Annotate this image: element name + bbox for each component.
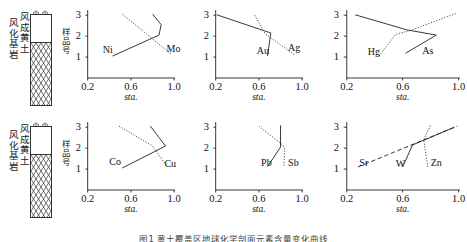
plot-svg-co-cu [84, 120, 176, 198]
series-label-hg: Hg [368, 47, 380, 57]
core-loess-unit-top [31, 15, 51, 43]
y-axis-tick-label: 2 [197, 143, 209, 154]
y-axis-tick-label: 3 [327, 10, 339, 21]
figure-caption: 图1 黄土覆盖区地球化学剖面元素含量变化曲线 [0, 232, 467, 242]
core-bedrock-unit-bottom [31, 155, 51, 217]
series-label-sr: Sr [359, 158, 368, 168]
x-axis-label: sta. [244, 93, 274, 103]
plot-area-sr-w-zn: 1230.20.61.0sta.SrWZn [342, 120, 461, 198]
plot-area-pb-sb: 1230.20.61.0sta.PbSb [212, 120, 304, 198]
series-line-hg [355, 15, 436, 35]
series-line-cu [119, 126, 167, 166]
y-axis-tick-label: 2 [327, 143, 339, 154]
y-axis-tick-label: 2 [197, 31, 209, 42]
series-label-cu: Cu [164, 159, 176, 169]
series-line-co [122, 126, 165, 168]
x-axis-tick-label: 0.2 [75, 194, 101, 205]
lithology-labels-top: 风成黄土 风化基岩 [2, 12, 30, 108]
x-axis-tick-label: 0.2 [203, 194, 229, 205]
x-axis-label: sta. [388, 205, 418, 215]
plot-area-hg-as: 1230.20.61.0sta.HgAs [342, 8, 461, 86]
chart-panel-hg-as: 1230.20.61.0sta.HgAs [316, 2, 467, 114]
y-axis-tick-label: 1 [69, 164, 81, 175]
x-axis-tick-label: 0.2 [334, 194, 360, 205]
y-axis-tick-label: 1 [197, 52, 209, 63]
y-axis-tick-label: 1 [327, 164, 339, 175]
series-label-co: Co [109, 157, 121, 167]
x-axis-label: sta. [116, 93, 146, 103]
series-label-as: As [422, 46, 433, 56]
x-axis-tick-label: 0.6 [118, 82, 144, 93]
series-line-ni [113, 14, 162, 56]
y-axis-tick-label: 2 [69, 31, 81, 42]
x-axis-tick-label: 0.2 [334, 82, 360, 93]
lithology-label-aeolian-loess-bottom: 风成黄土 [19, 124, 30, 220]
x-axis-tick-label: 0.6 [246, 194, 272, 205]
chart-panel-co-cu: 样品号 1230.20.61.0sta.CoCu [58, 114, 182, 226]
core-loess-unit-bottom [31, 127, 51, 155]
series-line-w [403, 127, 455, 167]
y-axis-tick-label: 1 [69, 52, 81, 63]
chart-panel-au-ag: 1230.20.61.0sta.AuAg [186, 2, 310, 114]
plot-area-ni-mo: 1230.20.61.0sta.NiMo [84, 8, 176, 86]
series-label-pb: Pb [261, 158, 272, 168]
y-axis-tick-label: 1 [197, 164, 209, 175]
y-axis-tick-label: 3 [197, 10, 209, 21]
plot-svg-hg-as [342, 8, 461, 86]
plot-area-au-ag: 1230.20.61.0sta.AuAg [212, 8, 304, 86]
x-axis-tick-label: 1.0 [446, 82, 467, 93]
lithology-label-aeolian-loess-top: 风成黄土 [19, 12, 30, 108]
x-axis-label: sta. [388, 93, 418, 103]
series-label-w: W [396, 159, 405, 169]
y-axis-tick-label: 3 [197, 122, 209, 133]
figure-row-top: 风成黄土 风化基岩 [0, 2, 467, 114]
core-log-bottom [30, 126, 52, 218]
y-axis-tick-label: 2 [327, 31, 339, 42]
series-label-sb: Sb [288, 158, 299, 168]
x-axis-label: sta. [244, 205, 274, 215]
x-axis-tick-label: 0.6 [390, 194, 416, 205]
series-label-zn: Zn [431, 158, 442, 168]
y-axis-tick-label: 3 [69, 122, 81, 133]
lithology-labels-bottom: 风成黄土 风化基岩 [2, 124, 30, 220]
series-label-mo: Mo [167, 44, 181, 54]
x-axis-tick-label: 0.2 [203, 82, 229, 93]
figure-row-bottom: 风成黄土 风化基岩 [0, 114, 467, 226]
x-axis-tick-label: 1.0 [289, 194, 315, 205]
series-label-ni: Ni [103, 45, 113, 55]
x-axis-tick-label: 0.6 [118, 194, 144, 205]
lithology-label-weathered-bedrock-bottom: 风化基岩 [8, 130, 19, 220]
series-line-as [379, 14, 456, 57]
series-line-zn [424, 125, 431, 167]
lithology-column-top: 风成黄土 风化基岩 [0, 2, 58, 114]
x-axis-tick-label: 1.0 [161, 82, 187, 93]
x-axis-tick-label: 0.6 [246, 82, 272, 93]
y-axis-tick-label: 2 [69, 143, 81, 154]
series-label-au: Au [257, 46, 269, 56]
x-axis-tick-label: 1.0 [289, 82, 315, 93]
x-axis-tick-label: 1.0 [161, 194, 187, 205]
chart-panel-sr-w-zn: 1230.20.61.0sta.SrWZn [316, 114, 467, 226]
y-axis-tick-label: 3 [327, 122, 339, 133]
core-bedrock-unit-top [31, 43, 51, 105]
lithology-column-bottom: 风成黄土 风化基岩 [0, 114, 58, 226]
plot-area-co-cu: 1230.20.61.0sta.CoCu [84, 120, 176, 198]
y-axis-tick-label: 1 [327, 52, 339, 63]
plot-svg-ni-mo [84, 8, 176, 86]
x-axis-tick-label: 1.0 [446, 194, 467, 205]
series-label-ag: Ag [288, 43, 300, 53]
lithology-label-weathered-bedrock-top: 风化基岩 [8, 18, 19, 108]
chart-panel-ni-mo: 样品号 1230.20.61.0sta.NiMo [58, 2, 182, 114]
core-log-top [30, 14, 52, 106]
y-axis-tick-label: 3 [69, 10, 81, 21]
x-axis-label: sta. [116, 205, 146, 215]
x-axis-tick-label: 0.2 [75, 82, 101, 93]
x-axis-tick-label: 0.6 [390, 82, 416, 93]
chart-panel-pb-sb: 1230.20.61.0sta.PbSb [186, 114, 310, 226]
